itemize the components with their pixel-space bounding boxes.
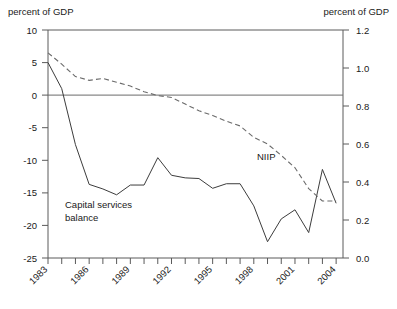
series-niip xyxy=(48,53,336,201)
right-tick-label: 0.4 xyxy=(356,177,369,188)
right-tick-label: 0.2 xyxy=(356,215,369,226)
footer-strip xyxy=(0,301,397,309)
left-tick-label: 0 xyxy=(32,90,37,101)
right-axis-ticks xyxy=(343,30,349,258)
capital-services-label-line1: Capital services xyxy=(65,199,132,210)
x-tick-label: 1983 xyxy=(27,264,50,287)
x-tick-label: 2004 xyxy=(315,264,338,287)
x-tick-label: 1989 xyxy=(109,264,132,287)
left-axis-labels: 10 5 0 -5 -10 -15 -20 -25 xyxy=(23,25,37,264)
left-axis-title: percent of GDP xyxy=(8,6,73,17)
right-axis-title: percent of GDP xyxy=(324,6,389,17)
plot-frame xyxy=(48,30,343,258)
x-tick-label: 1995 xyxy=(191,264,214,287)
capital-services-label-line2: balance xyxy=(65,212,98,223)
x-tick-label: 1998 xyxy=(232,264,255,287)
x-axis-ticks xyxy=(48,258,336,264)
x-axis-labels: 19831986198919921995199820012004 xyxy=(27,264,338,287)
left-tick-label: -10 xyxy=(23,155,37,166)
left-tick-label: 5 xyxy=(32,57,37,68)
left-tick-label: -5 xyxy=(29,122,37,133)
chart-svg: percent of GDP percent of GDP 10 5 0 -5 xyxy=(0,0,397,309)
left-tick-label: -15 xyxy=(23,187,37,198)
x-tick-label: 1992 xyxy=(150,264,173,287)
niip-label: NIIP xyxy=(257,151,275,162)
right-tick-label: 0.6 xyxy=(356,139,369,150)
x-tick-label: 2001 xyxy=(274,264,297,287)
right-axis-labels: 1.2 1.0 0.8 0.6 0.4 0.2 0.0 xyxy=(356,25,369,264)
right-tick-label: 0.0 xyxy=(356,253,369,264)
right-tick-label: 1.2 xyxy=(356,25,369,36)
left-tick-label: -25 xyxy=(23,253,37,264)
right-tick-label: 1.0 xyxy=(356,63,369,74)
right-tick-label: 0.8 xyxy=(356,101,369,112)
left-axis-ticks xyxy=(42,30,48,258)
left-tick-label: 10 xyxy=(26,25,37,36)
left-tick-label: -20 xyxy=(23,220,37,231)
chart-container: percent of GDP percent of GDP 10 5 0 -5 xyxy=(0,0,397,309)
x-tick-label: 1986 xyxy=(68,264,91,287)
